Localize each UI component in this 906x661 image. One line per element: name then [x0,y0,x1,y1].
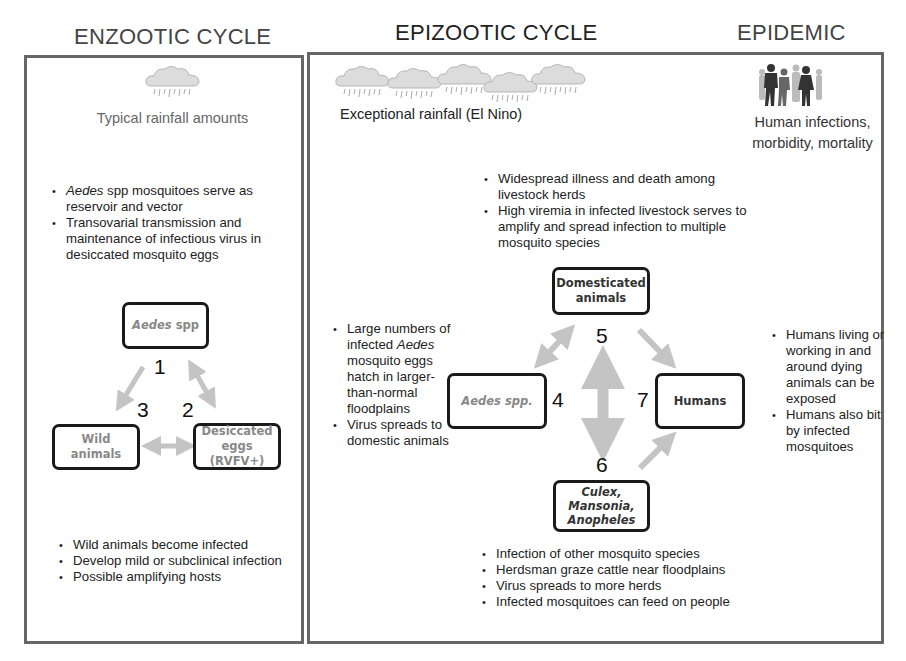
bullet-item: Virus spreads to more herds [496,578,796,594]
arrow-domesticated-aedes [542,333,567,360]
step-number-6: 6 [596,453,608,477]
node-culex-mansonia-anopheles: Culex,Mansonia,Anopheles [553,480,650,532]
arrow-domesticated-to-humans [639,330,668,360]
step-number-4: 4 [552,388,564,412]
arrow-culex-to-humans [640,440,668,468]
bullet-item: Infection of other mosquito species [496,546,796,562]
epidemic-right-bullets: Humans living or working in and around d… [770,327,891,455]
bullet-item: Infected mosquitoes can feed on people [496,594,796,610]
bullet-item: Humans also bit by infected mosquitoes [786,407,891,455]
bullet-item: Herdsman graze cattle near floodplains [496,562,796,578]
epizootic-bottom-bullets: Infection of other mosquito species Herd… [480,546,796,610]
step-number-5: 5 [596,324,608,348]
node-domesticated-animals: Domesticatedanimals [552,267,650,315]
step-number-7: 7 [637,388,649,412]
node-aedes-spp-epizootic: Aedes spp. [447,373,547,429]
node-humans: Humans [655,373,745,429]
bullet-item: Humans living or working in and around d… [786,327,891,407]
